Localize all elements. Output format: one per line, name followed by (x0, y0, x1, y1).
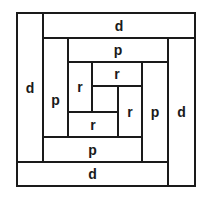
block-d-left: d (16, 12, 44, 163)
block-p-bottom: p (42, 136, 143, 163)
block-p-right: p (141, 61, 169, 163)
block-d-bottom: d (16, 161, 169, 187)
block-r-bottom: r (67, 111, 119, 138)
block-center (91, 85, 119, 113)
block-r-right: r (117, 85, 143, 138)
block-p-top: p (67, 37, 169, 63)
block-r-top: r (91, 61, 143, 87)
block-r-left: r (67, 61, 93, 113)
block-d-top: d (42, 12, 196, 39)
block-d-right: d (167, 37, 196, 187)
